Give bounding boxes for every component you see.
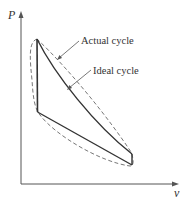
y-axis-label: P [7,8,16,22]
actual-cycle-leader [59,41,79,58]
y-axis-arrow-icon [19,11,24,18]
pv-diagram: P v Actual cycle Ideal cycle [0,0,195,200]
ideal-heat-addition-line [37,39,38,112]
ideal-cycle-label: Ideal cycle [93,65,139,76]
actual-cycle-curve [30,39,133,166]
ideal-cycle-leader [69,70,91,88]
ideal-cycle [37,39,132,165]
ideal-expansion-curve [37,39,132,154]
ideal-compression-line [38,112,133,165]
actual-cycle-label: Actual cycle [81,35,134,46]
x-axis-label: v [174,186,180,200]
